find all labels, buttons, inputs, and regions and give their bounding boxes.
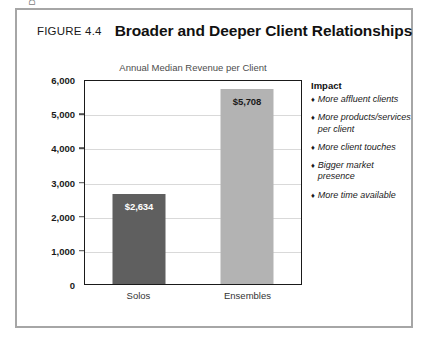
bar-value-label: $2,634 — [113, 201, 166, 212]
y-axis-tick-label: 0 — [70, 280, 75, 291]
bars-layer: $2,634$5,708 — [85, 81, 301, 284]
bar: $5,708 — [221, 89, 274, 284]
diamond-bullet-icon: ♦ — [311, 94, 315, 105]
impact-list-item: ♦More time available — [311, 190, 411, 201]
plot-area: $2,634$5,708 — [84, 80, 302, 285]
impact-item-text: More products/services per client — [318, 112, 411, 135]
x-axis-labels: SolosEnsembles — [84, 290, 302, 301]
impact-panel: Impact ♦More affluent clients♦More produ… — [311, 80, 411, 208]
impact-list-item: ♦More affluent clients — [311, 94, 411, 105]
diamond-bullet-icon: ♦ — [311, 160, 315, 171]
x-axis-category-label: Ensembles — [193, 290, 302, 301]
diamond-bullet-icon: ♦ — [311, 142, 315, 153]
figure-frame: FIGURE 4.4 Broader and Deeper Client Rel… — [15, 8, 413, 328]
y-axis-tick-label: 6,000 — [51, 75, 75, 86]
impact-item-text: Bigger market presence — [318, 160, 411, 183]
impact-item-text: More client touches — [318, 142, 411, 153]
chart-title: Annual Median Revenue per Client — [84, 62, 302, 73]
impact-item-text: More time available — [318, 190, 411, 201]
bar: $2,634 — [113, 194, 166, 284]
y-axis-tick-label: 1,000 — [51, 245, 75, 256]
y-axis-tick-label: 5,000 — [51, 109, 75, 120]
diamond-bullet-icon: ♦ — [311, 112, 315, 123]
y-axis-tick-label: 2,000 — [51, 211, 75, 222]
y-axis-tick-label: 4,000 — [51, 143, 75, 154]
y-axis-tick-label: 3,000 — [51, 177, 75, 188]
impact-list-item: ♦More products/services per client — [311, 112, 411, 135]
impact-list-item: ♦More client touches — [311, 142, 411, 153]
impact-heading: Impact — [311, 80, 411, 91]
impact-list: ♦More affluent clients♦More products/ser… — [311, 94, 411, 201]
diamond-bullet-icon: ♦ — [311, 190, 315, 201]
x-axis-category-label: Solos — [84, 290, 193, 301]
y-axis: 01,0002,0003,0004,0005,0006,000 — [17, 80, 84, 285]
bar-group: $2,634 — [85, 81, 193, 284]
impact-list-item: ♦Bigger market presence — [311, 160, 411, 183]
bar-group: $5,708 — [193, 81, 301, 284]
impact-item-text: More affluent clients — [318, 94, 411, 105]
bar-value-label: $5,708 — [221, 96, 274, 107]
